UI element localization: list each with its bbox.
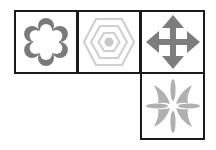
move-arrows-icon xyxy=(144,13,202,71)
grid-cell-move-arrows[interactable] xyxy=(140,10,205,74)
grid-cell-flower[interactable] xyxy=(14,10,78,74)
star-burst-icon xyxy=(144,77,202,135)
flower-icon xyxy=(17,13,75,71)
concentric-hexagon-icon xyxy=(80,13,138,71)
grid-cell-star-burst[interactable] xyxy=(140,72,205,140)
grid-cell-hexagon[interactable] xyxy=(77,10,141,74)
